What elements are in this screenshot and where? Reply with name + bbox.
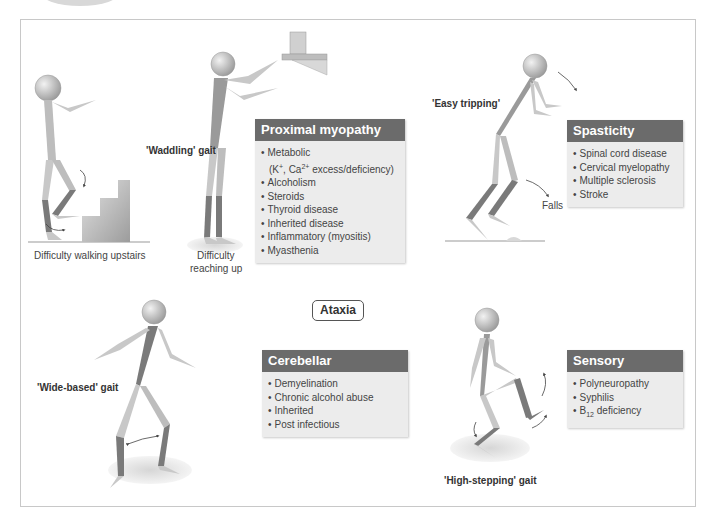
list-item: (K+, Ca2+ excess/deficiency) [261,160,399,177]
list-item: Inherited disease [261,217,399,231]
label-waddling: 'Waddling' gait [146,145,216,156]
sensory-title: Sensory [567,350,683,372]
list-item: Cervical myelopathy [573,161,677,175]
list-item: Thyroid disease [261,203,399,217]
list-item: Stroke [573,188,677,202]
list-item: Spinal cord disease [573,147,677,161]
list-item: Myasthenia [261,244,399,258]
list-item: Multiple sclerosis [573,174,677,188]
label-upstairs: Difficulty walking upstairs [34,250,146,261]
label-reaching-1: Difficulty [197,250,235,261]
list-item: Demyelination [268,377,402,391]
list-item: B12 deficiency [573,404,677,422]
figure-wide-based [94,300,196,488]
label-falls: Falls [542,200,563,211]
spasticity-box: Spasticity Spinal cord disease Cervical … [567,120,683,207]
list-item: Chronic alcohol abuse [268,391,402,405]
figure-upstairs [28,75,150,242]
proximal-myopathy-title: Proximal myopathy [255,119,405,141]
list-item: Polyneuropathy [573,377,677,391]
proximal-myopathy-box: Proximal myopathy Metabolic (K+, Ca2+ ex… [255,119,405,263]
figure-tripping [445,54,576,241]
list-item: Steroids [261,190,399,204]
label-easy-tripping: 'Easy tripping' [432,98,500,109]
list-item: Metabolic [261,146,399,160]
label-reaching-2: reaching up [190,263,242,274]
list-item: Inherited [268,404,402,418]
spasticity-title: Spasticity [567,120,683,142]
list-item: Alcoholism [261,176,399,190]
list-item: Syphilis [573,391,677,405]
label-high-stepping: 'High-stepping' gait [444,475,537,486]
label-wide-based: 'Wide-based' gait [37,382,118,393]
list-item: Post infectious [268,418,402,432]
cerebellar-title: Cerebellar [262,350,408,372]
sensory-box: Sensory Polyneuropathy Syphilis B12 defi… [567,350,683,428]
figure-high-stepping [450,308,546,462]
list-item: Inflammatory (myositis) [261,230,399,244]
ataxia-heading: Ataxia [312,300,364,321]
cerebellar-box: Cerebellar Demyelination Chronic alcohol… [262,350,408,437]
